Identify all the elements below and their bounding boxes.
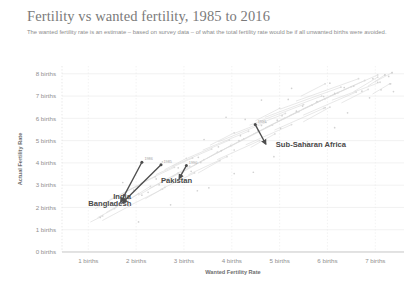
x-tick-label: 2 births: [126, 257, 146, 264]
year-label: 1990: [189, 161, 197, 165]
country-annotations: IndiaBangladeshPakistanSub-Saharan Afric…: [88, 140, 346, 208]
highlighted-trajectories: 1986198519901991: [121, 120, 266, 203]
x-tick-label: 6 births: [317, 257, 337, 264]
year-label: 1991: [258, 120, 266, 124]
scatter-plot-svg: 0 births1 births2 births3 births4 births…: [0, 0, 412, 292]
y-tick-label: 8 births: [36, 70, 56, 77]
y-tick-label: 4 births: [36, 159, 56, 166]
y-tick-label: 5 births: [36, 137, 56, 144]
trajectory-start-point: [254, 123, 257, 126]
x-tick-label: 7 births: [365, 257, 385, 264]
year-label: 1985: [164, 160, 172, 164]
trajectory-start-point: [160, 163, 163, 166]
y-axis-tick-labels: 0 births1 births2 births3 births4 births…: [36, 70, 56, 255]
y-tick-label: 6 births: [36, 115, 56, 122]
y-tick-label: 3 births: [36, 181, 56, 188]
year-label: 1986: [144, 157, 152, 161]
x-tick-label: 5 births: [269, 257, 289, 264]
y-tick-label: 7 births: [36, 92, 56, 99]
x-axis-title: Wanted Fertility Rate: [205, 269, 260, 275]
country-label: Sub-Saharan Africa: [276, 140, 347, 149]
trajectory-start-point: [140, 161, 143, 164]
chart-container: Fertility vs wanted fertility, 1985 to 2…: [0, 0, 412, 292]
country-label: Pakistan: [161, 176, 193, 185]
y-tick-label: 2 births: [36, 204, 56, 211]
trajectory-start-point: [185, 164, 188, 167]
y-tick-label: 0 births: [36, 248, 56, 255]
country-label: Bangladesh: [88, 199, 131, 208]
x-axis-tick-labels: 1 births2 births3 births4 births5 births…: [78, 257, 385, 264]
x-tick-label: 4 births: [222, 257, 242, 264]
x-tick-label: 3 births: [174, 257, 194, 264]
y-tick-label: 1 births: [36, 226, 56, 233]
trajectory-arrow: [255, 125, 266, 144]
x-tick-label: 1 births: [78, 257, 98, 264]
y-axis-title: Actual Fertility Rate: [17, 133, 23, 186]
